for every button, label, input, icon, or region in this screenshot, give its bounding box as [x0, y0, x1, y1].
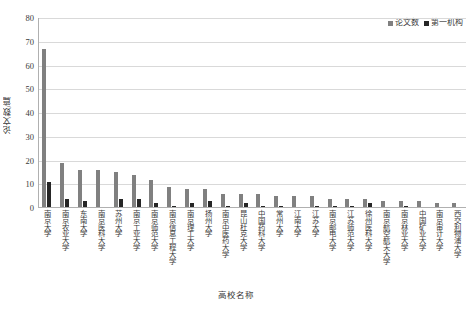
x-axis-label: 南京工业大学 [132, 209, 139, 287]
bar[interactable] [132, 175, 136, 208]
bar[interactable] [114, 172, 118, 208]
x-axis-label: 西交利物浦大学 [453, 209, 460, 287]
bar-group[interactable] [270, 18, 288, 208]
bar[interactable] [239, 194, 243, 208]
x-axis-label-cell: 南京邮电大学 [323, 209, 341, 287]
x-axis-label-cell: 南京中医药大学 [216, 209, 234, 287]
bar-group[interactable] [359, 18, 377, 208]
bar-group[interactable] [395, 18, 413, 208]
bar[interactable] [149, 180, 153, 209]
bar[interactable] [203, 189, 207, 208]
bar-group[interactable] [145, 18, 163, 208]
bar-group[interactable] [288, 18, 306, 208]
bar-group[interactable] [91, 18, 109, 208]
x-axis-label: 南京农业大学 [61, 209, 68, 287]
x-axis-label-cell: 江苏大学 [305, 209, 323, 287]
x-axis-labels: 南京大学南京农业大学东南大学南京医科大学苏州大学南京工业大学南京师范大学南京信息… [38, 209, 466, 287]
bar-groups [38, 18, 466, 208]
bar-group[interactable] [341, 18, 359, 208]
x-axis-label: 东南大学 [79, 209, 86, 287]
x-axis-label-cell: 南京审计大学 [430, 209, 448, 287]
bar-group[interactable] [127, 18, 145, 208]
x-axis-label-cell: 南京林业大学 [395, 209, 413, 287]
x-axis-label: 南京林业大学 [400, 209, 407, 287]
bar-group[interactable] [323, 18, 341, 208]
x-axis-label-cell: 南京大学 [38, 209, 56, 287]
bar-group[interactable] [38, 18, 56, 208]
x-axis-label: 南京审计大学 [435, 209, 442, 287]
bar-group[interactable] [109, 18, 127, 208]
x-axis-label: 南京中医药大学 [221, 209, 228, 287]
x-axis-label-cell: 南京农业大学 [56, 209, 74, 287]
y-axis-tick-label: 20 [14, 156, 34, 166]
bar[interactable] [42, 49, 46, 208]
y-axis-tick-label: 10 [14, 179, 34, 189]
bar[interactable] [221, 194, 225, 208]
bar-group[interactable] [181, 18, 199, 208]
bar[interactable] [47, 182, 51, 208]
x-axis-label-cell: 南京理工大学 [181, 209, 199, 287]
y-axis-tick-label: 50 [14, 84, 34, 94]
bar[interactable] [78, 170, 82, 208]
y-axis-tick-label: 70 [14, 37, 34, 47]
bar[interactable] [96, 170, 100, 208]
x-axis-label: 江苏师范大学 [346, 209, 353, 287]
bar-group[interactable] [234, 18, 252, 208]
bar-group[interactable] [305, 18, 323, 208]
x-axis-line [38, 207, 466, 208]
x-axis-label-cell: 苏州大学 [109, 209, 127, 287]
bar-group[interactable] [56, 18, 74, 208]
y-axis-tick-label: 0 [14, 203, 34, 213]
x-axis-label-cell: 徐州医科大学 [359, 209, 377, 287]
x-axis-label: 徐州医科大学 [364, 209, 371, 287]
x-axis-label: 南京信息工程大学 [168, 209, 175, 287]
bar[interactable] [60, 163, 64, 208]
x-axis-label: 南京大学 [43, 209, 50, 287]
bar[interactable] [167, 187, 171, 208]
x-axis-label-cell: 昆山杜克大学 [234, 209, 252, 287]
x-axis-label: 江南大学 [293, 209, 300, 287]
bar-chart: 论文数 第一机构 论文数/篇 80706050403020100 南京大学南京农… [0, 0, 471, 309]
x-axis-label: 南京医科大学 [97, 209, 104, 287]
plot-area [38, 18, 466, 208]
bar[interactable] [185, 189, 189, 208]
bar-group[interactable] [412, 18, 430, 208]
x-axis-label: 南京航空航天大学 [382, 209, 389, 287]
x-axis-label: 中国矿业大学 [418, 209, 425, 287]
y-axis-tick-label: 40 [14, 108, 34, 118]
bar-group[interactable] [216, 18, 234, 208]
x-axis-label-cell: 南京航空航天大学 [377, 209, 395, 287]
x-axis-title: 高校名称 [0, 288, 471, 300]
y-axis-title: 论文数/篇 [2, 96, 12, 134]
x-axis-label: 南京理工大学 [186, 209, 193, 287]
x-axis-label-cell: 常州大学 [270, 209, 288, 287]
x-axis-label: 苏州大学 [115, 209, 122, 287]
x-axis-label-cell: 西交利物浦大学 [448, 209, 466, 287]
x-axis-label-cell: 南京师范大学 [145, 209, 163, 287]
x-axis-label: 常州大学 [275, 209, 282, 287]
x-axis-label-cell: 中国矿业大学 [412, 209, 430, 287]
x-axis-label: 南京师范大学 [150, 209, 157, 287]
x-axis-label-cell: 东南大学 [74, 209, 92, 287]
x-axis-label-cell: 南京信息工程大学 [163, 209, 181, 287]
y-axis-tick-label: 60 [14, 61, 34, 71]
bar-group[interactable] [163, 18, 181, 208]
y-axis-tick-label: 80 [14, 13, 34, 23]
x-axis-label-cell: 扬州大学 [198, 209, 216, 287]
x-axis-label: 扬州大学 [204, 209, 211, 287]
y-axis-ticks: 80706050403020100 [14, 18, 34, 208]
x-axis-label-cell: 江苏师范大学 [341, 209, 359, 287]
bar-group[interactable] [430, 18, 448, 208]
bar[interactable] [256, 194, 260, 208]
bar-group[interactable] [448, 18, 466, 208]
x-axis-label: 江苏大学 [311, 209, 318, 287]
x-axis-label: 昆山杜克大学 [239, 209, 246, 287]
bar-group[interactable] [198, 18, 216, 208]
bar-group[interactable] [377, 18, 395, 208]
x-axis-label-cell: 南京医科大学 [91, 209, 109, 287]
x-axis-label: 中国药科大学 [257, 209, 264, 287]
bar-group[interactable] [74, 18, 92, 208]
x-axis-label-cell: 江南大学 [288, 209, 306, 287]
bar-group[interactable] [252, 18, 270, 208]
x-axis-label-cell: 中国药科大学 [252, 209, 270, 287]
